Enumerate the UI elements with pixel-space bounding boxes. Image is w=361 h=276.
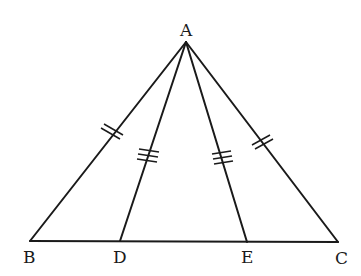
tick-marks-ad [137, 149, 159, 162]
segment-ae [186, 42, 247, 242]
label-a: A [179, 20, 193, 40]
segment-ad [120, 42, 186, 241]
segment-ab [30, 42, 186, 241]
segment-bc [30, 241, 338, 242]
segment-ac [186, 42, 338, 242]
label-b: B [23, 247, 36, 267]
tick-marks-ae [212, 151, 233, 164]
label-c: C [335, 248, 348, 268]
label-e: E [241, 247, 253, 267]
label-d: D [113, 247, 127, 267]
triangle-diagram: A B D E C [0, 0, 361, 276]
